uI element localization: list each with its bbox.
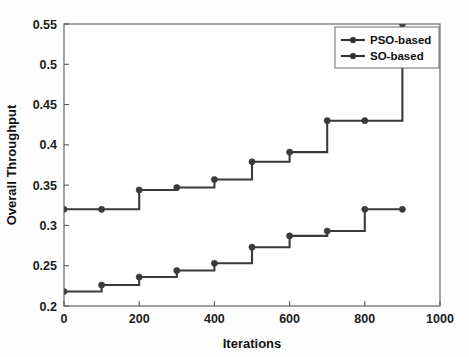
legend-label: SO-based (370, 50, 424, 62)
data-point (324, 118, 330, 124)
x-tick-label: 200 (129, 312, 150, 326)
data-point (136, 274, 142, 280)
chart-figure: 0.20.250.30.350.40.450.50.55 02004006008… (0, 0, 469, 357)
x-axis-title: Iterations (223, 336, 282, 351)
legend-label: PSO-based (370, 34, 431, 46)
y-tick-label: 0.55 (33, 18, 57, 32)
data-point (211, 260, 217, 266)
y-tick-label: 0.45 (33, 98, 57, 112)
y-tick-label: 0.35 (33, 179, 57, 193)
data-point (136, 187, 142, 193)
data-point (174, 184, 180, 190)
data-point (99, 282, 105, 288)
data-point (249, 159, 255, 165)
x-tick-label: 0 (61, 312, 68, 326)
data-point (324, 228, 330, 234)
y-tick-label: 0.25 (33, 259, 57, 273)
data-point (287, 233, 293, 239)
legend-marker-sample (350, 53, 356, 59)
x-tick-label: 800 (354, 312, 375, 326)
data-point (174, 267, 180, 273)
y-axis-title: Overall Throughput (4, 104, 19, 225)
legend-marker-sample (350, 37, 356, 43)
x-tick-label: 400 (204, 312, 225, 326)
data-point (287, 149, 293, 155)
x-tick-label: 1000 (426, 312, 454, 326)
data-point (362, 118, 368, 124)
chart-legend[interactable]: PSO-basedSO-based (335, 27, 439, 68)
y-tick-label: 0.4 (40, 138, 57, 152)
y-tick-label: 0.3 (40, 219, 57, 233)
data-point (399, 206, 405, 212)
y-tick-label: 0.5 (40, 58, 57, 72)
x-tick-label: 600 (279, 312, 300, 326)
chart-canvas: 0.20.250.30.350.40.450.50.55 02004006008… (0, 0, 469, 357)
data-point (211, 176, 217, 182)
y-tick-label: 0.2 (40, 300, 57, 314)
data-point (362, 206, 368, 212)
data-point (249, 244, 255, 250)
data-point (99, 206, 105, 212)
